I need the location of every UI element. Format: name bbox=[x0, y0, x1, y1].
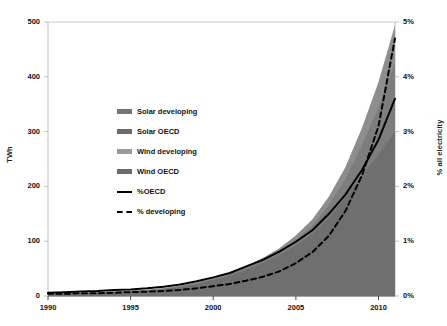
legend-swatch-solar-developing bbox=[117, 109, 132, 114]
y-tick-label-400: 400 bbox=[14, 72, 40, 81]
chart-canvas bbox=[0, 0, 447, 326]
y2-tick-label-5pct: 5% bbox=[403, 17, 429, 26]
legend-item-wind-developing: Wind developing bbox=[117, 146, 197, 157]
legend-swatch-solar-oecd bbox=[117, 129, 132, 134]
area-wind-oecd bbox=[48, 132, 395, 296]
y2-tick-label-1pct: 1% bbox=[403, 236, 429, 245]
legend-label-pct-oecd: %OECD bbox=[137, 187, 165, 196]
legend-label-wind-developing: Wind developing bbox=[137, 147, 197, 156]
y-tick-label-500: 500 bbox=[14, 17, 40, 26]
legend-label-pct-developing: % developing bbox=[137, 207, 185, 216]
legend-swatch-wind-developing bbox=[117, 149, 132, 154]
legend-item-pct-developing: % developing bbox=[117, 206, 185, 217]
chart-container: TWh % all electricity 500 400 300 200 10… bbox=[0, 0, 447, 326]
y2-tick-label-2pct: 2% bbox=[403, 181, 429, 190]
y-tick-label-200: 200 bbox=[14, 181, 40, 190]
legend-item-pct-oecd: %OECD bbox=[117, 186, 165, 197]
y-tick-label-300: 300 bbox=[14, 127, 40, 136]
x-tick-label-2010: 2010 bbox=[362, 303, 396, 312]
y2-tick-label-4pct: 4% bbox=[403, 72, 429, 81]
legend-item-wind-oecd: Wind OECD bbox=[117, 166, 179, 177]
legend-line-pct-oecd bbox=[117, 191, 132, 193]
x-tick-label-1990: 1990 bbox=[31, 303, 65, 312]
y2-tick-label-3pct: 3% bbox=[403, 127, 429, 136]
legend-line-pct-developing bbox=[117, 211, 132, 213]
legend-label-wind-oecd: Wind OECD bbox=[137, 167, 179, 176]
y-tick-label-100: 100 bbox=[14, 236, 40, 245]
legend-item-solar-developing: Solar developing bbox=[117, 106, 197, 117]
y-tick-label-0: 0 bbox=[14, 291, 40, 300]
x-tick-label-2000: 2000 bbox=[196, 303, 230, 312]
x-tick-label-1995: 1995 bbox=[114, 303, 148, 312]
y-axis-title-left: TWh bbox=[5, 135, 14, 175]
legend-item-solar-oecd: Solar OECD bbox=[117, 126, 180, 137]
legend-swatch-wind-oecd bbox=[117, 169, 132, 174]
x-tick-label-2005: 2005 bbox=[279, 303, 313, 312]
y-axis-title-right: % all electricity bbox=[435, 113, 444, 183]
area-series-group bbox=[48, 25, 395, 296]
legend-label-solar-oecd: Solar OECD bbox=[137, 127, 180, 136]
legend-label-solar-developing: Solar developing bbox=[137, 107, 197, 116]
y2-tick-label-0pct: 0% bbox=[403, 291, 429, 300]
